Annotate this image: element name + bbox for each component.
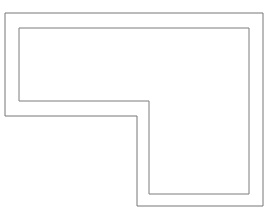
l-shape-drawing — [0, 0, 272, 216]
canvas-background — [0, 0, 272, 216]
drawing-canvas — [0, 0, 272, 216]
